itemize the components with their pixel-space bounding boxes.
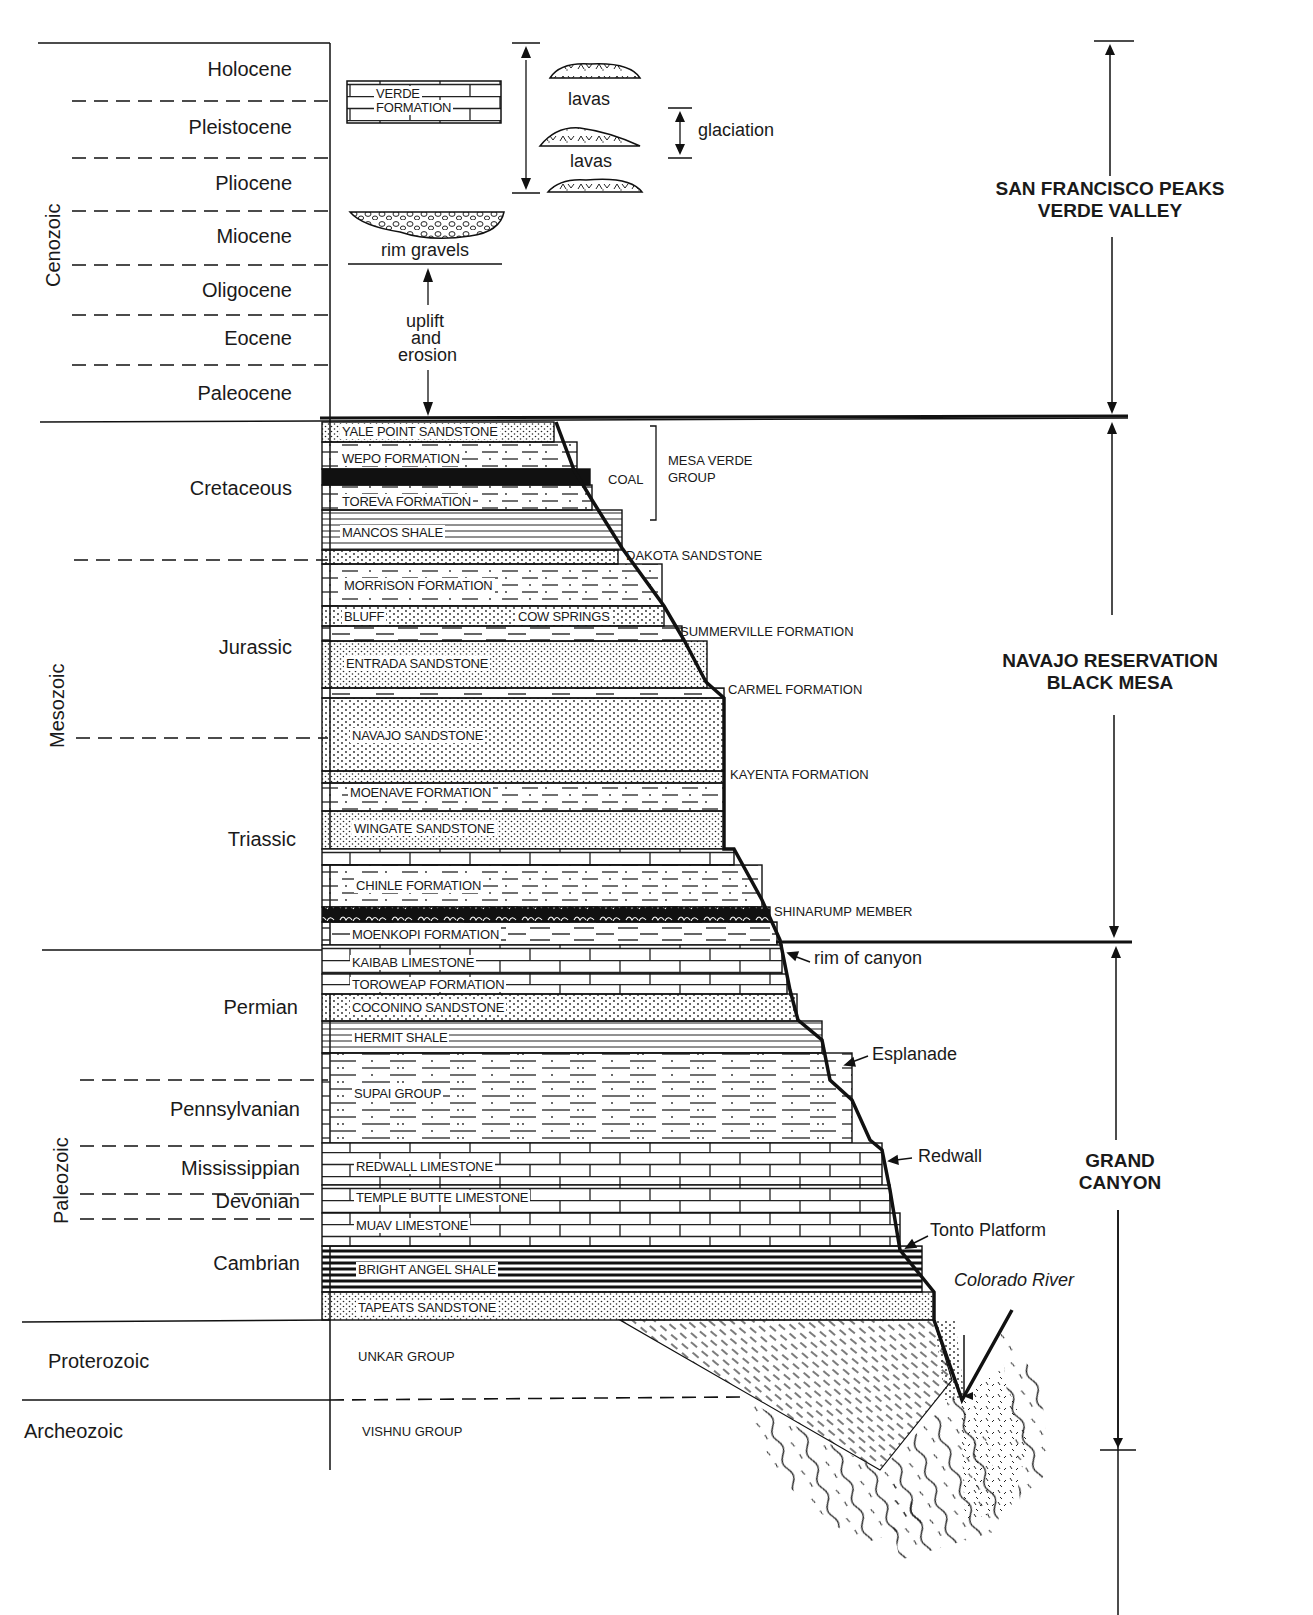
formation-label: REDWALL LIMESTONE <box>354 1159 495 1174</box>
lavas-label-upper: lavas <box>568 89 610 110</box>
formation-label: TOROWEAP FORMATION <box>350 977 506 992</box>
period-label: Triassic <box>36 828 296 851</box>
formation-label: HERMIT SHALE <box>352 1030 449 1045</box>
formation-label: TEMPLE BUTTE LIMESTONE <box>354 1190 530 1205</box>
formation-label: MANCOS SHALE <box>340 525 445 540</box>
stratigraphic-diagram: Cenozoic Mesozoic Paleozoic Proterozoic … <box>0 0 1313 1615</box>
landmark-rim-of-canyon: rim of canyon <box>814 948 922 969</box>
era-label-archeozoic: Archeozoic <box>24 1420 123 1443</box>
period-label: Pleistocene <box>32 116 292 139</box>
formation-label: UNKAR GROUP <box>358 1349 455 1364</box>
formation-label: MOENAVE FORMATION <box>348 785 493 800</box>
glaciation-label: glaciation <box>698 120 774 141</box>
mesa-verde-label-1: MESA VERDE <box>668 453 753 468</box>
formation-label: COCONINO SANDSTONE <box>350 1000 506 1015</box>
formation-label: YALE POINT SANDSTONE <box>340 424 500 439</box>
lavas-label-lower: lavas <box>570 151 612 172</box>
formation-label: MORRISON FORMATION <box>342 578 495 593</box>
landmark-colorado-river: Colorado River <box>954 1270 1074 1291</box>
period-label: Permian <box>38 996 298 1019</box>
era-label-proterozoic: Proterozoic <box>48 1350 149 1373</box>
region-line: CANYON <box>1050 1172 1190 1194</box>
formation-side-label: SHINARUMP MEMBER <box>774 904 912 919</box>
verde-formation-label-2: FORMATION <box>374 100 453 115</box>
formation-label: BLUFF <box>342 609 386 624</box>
formation-label: CHINLE FORMATION <box>354 878 483 893</box>
era-label-mesozoic: Mesozoic <box>46 664 69 748</box>
region-label-navajo-reservation: NAVAJO RESERVATION BLACK MESA <box>960 650 1260 694</box>
period-label: Oligocene <box>32 279 292 302</box>
period-label: Pennsylvanian <box>40 1098 300 1121</box>
formation-label: VISHNU GROUP <box>362 1424 462 1439</box>
period-label: Devonian <box>40 1190 300 1213</box>
verde-formation-label-1: VERDE <box>374 86 422 101</box>
mesa-verde-label-2: GROUP <box>668 470 716 485</box>
period-label: Eocene <box>32 327 292 350</box>
uplift-label-3: erosion <box>398 345 457 366</box>
formation-label: SUPAI GROUP <box>352 1086 443 1101</box>
period-label: Jurassic <box>32 636 292 659</box>
landmark-redwall: Redwall <box>918 1146 982 1167</box>
period-label: Mississippian <box>40 1157 300 1180</box>
formation-side-label: DAKOTA SANDSTONE <box>626 548 762 563</box>
formation-label: TOREVA FORMATION <box>340 494 473 509</box>
rim-gravels-label: rim gravels <box>381 240 469 261</box>
region-line: SAN FRANCISCO PEAKS <box>960 178 1260 200</box>
formation-side-label: COAL <box>608 472 643 487</box>
landmark-esplanade: Esplanade <box>872 1044 957 1065</box>
period-label: Cretaceous <box>32 477 292 500</box>
region-line: BLACK MESA <box>960 672 1260 694</box>
formation-label: WINGATE SANDSTONE <box>352 821 497 836</box>
period-label: Pliocene <box>32 172 292 195</box>
formation-label: TAPEATS SANDSTONE <box>356 1300 498 1315</box>
period-label: Holocene <box>32 58 292 81</box>
formation-label: ENTRADA SANDSTONE <box>344 656 490 671</box>
formation-label: MOENKOPI FORMATION <box>350 927 501 942</box>
formation-label: NAVAJO SANDSTONE <box>350 728 485 743</box>
formation-side-label: KAYENTA FORMATION <box>730 767 869 782</box>
formation-label: WEPO FORMATION <box>340 451 462 466</box>
period-label: Cambrian <box>40 1252 300 1275</box>
region-line: VERDE VALLEY <box>960 200 1260 222</box>
formation-side-label: CARMEL FORMATION <box>728 682 862 697</box>
formation-label: BRIGHT ANGEL SHALE <box>356 1262 498 1277</box>
period-label: Paleocene <box>32 382 292 405</box>
formation-side-label: SUMMERVILLE FORMATION <box>680 624 854 639</box>
formation-label: KAIBAB LIMESTONE <box>350 955 476 970</box>
landmark-tonto-platform: Tonto Platform <box>930 1220 1046 1241</box>
region-line: NAVAJO RESERVATION <box>960 650 1260 672</box>
region-label-san-francisco-peaks: SAN FRANCISCO PEAKS VERDE VALLEY <box>960 178 1260 222</box>
region-line: GRAND <box>1050 1150 1190 1172</box>
formation-label: COW SPRINGS <box>516 609 612 624</box>
region-label-grand-canyon: GRAND CANYON <box>1050 1150 1190 1194</box>
formation-label: MUAV LIMESTONE <box>354 1218 470 1233</box>
period-label: Miocene <box>32 225 292 248</box>
